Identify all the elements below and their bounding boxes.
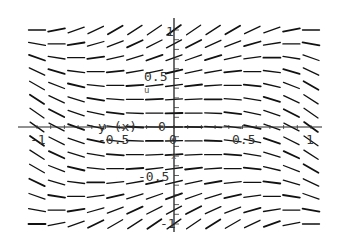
slope-segment <box>283 28 300 31</box>
slope-segment <box>224 154 241 155</box>
slope-segment <box>185 154 202 155</box>
slope-segment <box>304 81 319 90</box>
slope-segment <box>205 168 222 169</box>
slope-segment <box>205 113 222 114</box>
slope-segment <box>146 194 162 200</box>
y-tick-neg0.5: -0.5 <box>138 170 169 183</box>
x-tick-neg0.5: -0.5 <box>98 133 129 146</box>
slope-segment <box>303 68 318 75</box>
slope-segment <box>88 26 103 33</box>
slope-segment <box>225 220 240 229</box>
slope-segment <box>244 208 260 213</box>
slope-segment <box>283 222 300 225</box>
slope-segment <box>224 56 241 60</box>
slope-segment <box>187 25 201 35</box>
slope-segment <box>49 151 64 158</box>
slope-segment <box>186 206 201 214</box>
slope-segment <box>244 85 261 87</box>
slope-segment <box>205 181 222 184</box>
slope-segment <box>284 109 299 117</box>
slope-segment <box>87 98 104 101</box>
slope-segment <box>206 25 220 34</box>
slope-segment <box>244 168 261 170</box>
slope-segment <box>205 85 222 86</box>
slope-segment <box>244 153 261 156</box>
slope-segment <box>68 221 84 227</box>
slope-segment <box>88 208 104 213</box>
slope-segment <box>205 70 222 73</box>
slope-segment <box>264 27 280 33</box>
slope-segment <box>107 112 124 114</box>
x-tick-neg1: -1 <box>30 133 46 146</box>
slope-segment <box>127 70 144 73</box>
slope-segment <box>127 40 143 47</box>
slope-segment <box>49 137 64 145</box>
slope-segment <box>68 110 84 116</box>
slope-segment <box>303 194 319 200</box>
slope-segment <box>206 219 220 228</box>
slope-segment <box>87 168 104 170</box>
slope-segment <box>107 99 124 100</box>
slope-segment <box>205 141 222 142</box>
slope-segment <box>186 40 201 48</box>
slope-segment <box>68 167 85 171</box>
slope-segment <box>87 85 104 87</box>
slope-segment <box>264 152 280 157</box>
slope-segment <box>264 43 281 46</box>
slope-segment <box>30 150 44 159</box>
slope-segment <box>87 153 104 156</box>
slope-segment <box>107 207 123 213</box>
slope-segment <box>30 164 45 173</box>
slope-segment <box>186 55 202 61</box>
slope-segment <box>283 195 300 198</box>
slope-segment <box>68 43 85 46</box>
slope-segment <box>68 71 85 73</box>
slope-segment <box>284 151 299 158</box>
slope-segment <box>205 40 221 47</box>
slope-segment <box>49 109 64 117</box>
slope-segment <box>264 167 281 171</box>
slope-segment <box>283 180 299 185</box>
slope-segment <box>147 25 161 35</box>
slope-segment <box>87 57 104 59</box>
y-tick-neg1: -1 <box>160 217 176 230</box>
slope-segment <box>68 27 84 33</box>
slope-segment <box>29 68 44 75</box>
origin-zero-label: 0 <box>158 120 166 133</box>
slope-segment <box>127 194 143 199</box>
slope-segment <box>244 42 260 47</box>
slope-segment <box>30 81 45 90</box>
slope-segment <box>224 182 241 184</box>
slope-segment <box>126 113 143 114</box>
slope-segment <box>225 41 241 47</box>
x-tick-0: 0 <box>169 133 177 146</box>
slope-segment <box>29 179 44 186</box>
slope-segment <box>224 112 241 114</box>
slope-segment <box>127 207 143 214</box>
slope-segment <box>263 71 280 73</box>
slope-segment <box>225 26 240 35</box>
slope-segment <box>68 97 84 102</box>
slope-segment <box>88 42 104 47</box>
slope-segment <box>30 108 44 118</box>
slope-segment <box>284 82 300 88</box>
slope-segment <box>68 84 85 88</box>
slope-segment <box>304 164 319 173</box>
slope-segment <box>68 152 84 157</box>
slope-segment <box>205 55 221 60</box>
slope-segment <box>304 108 318 118</box>
slope-segment <box>244 195 261 197</box>
slope-segment <box>68 181 85 183</box>
slope-segment <box>107 56 124 60</box>
slope-segment <box>147 40 162 48</box>
y-tick-0.5: 0.5 <box>144 70 167 83</box>
slope-segment <box>29 209 46 212</box>
slope-segment <box>87 111 104 115</box>
slope-segment <box>225 207 241 213</box>
slope-segment <box>146 99 163 100</box>
slope-segment <box>245 220 260 227</box>
slope-segment <box>29 55 45 61</box>
slope-segment <box>304 150 318 159</box>
slope-segment <box>68 138 84 144</box>
axis-ticks <box>37 30 311 224</box>
